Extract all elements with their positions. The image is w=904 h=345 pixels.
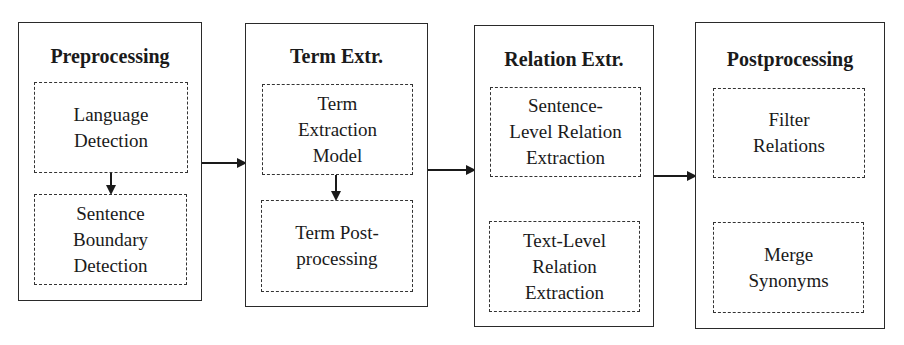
stage-title: Preprocessing [19,45,201,68]
arrow-down-icon [335,175,337,199]
step-merge-synonyms: Merge Synonyms [713,222,864,313]
arrow-right-icon [428,169,474,171]
stage-title: Postprocessing [696,48,884,71]
step-sentence-boundary-detection: Sentence Boundary Detection [34,194,187,285]
arrow-right-icon [202,162,245,164]
step-sentence-level-relation-extraction: Sentence- Level Relation Extraction [490,87,641,177]
step-term-extraction-model: Term Extraction Model [262,84,413,175]
step-text-level-relation-extraction: Text-Level Relation Extraction [489,221,640,312]
step-term-postprocessing: Term Post- processing [261,200,413,292]
stage-title: Term Extr. [246,45,427,68]
step-language-detection: Language Detection [34,82,188,173]
arrow-down-icon [110,173,112,193]
stage-title: Relation Extr. [475,48,653,71]
arrow-right-icon [654,175,695,177]
step-filter-relations: Filter Relations [713,88,865,178]
